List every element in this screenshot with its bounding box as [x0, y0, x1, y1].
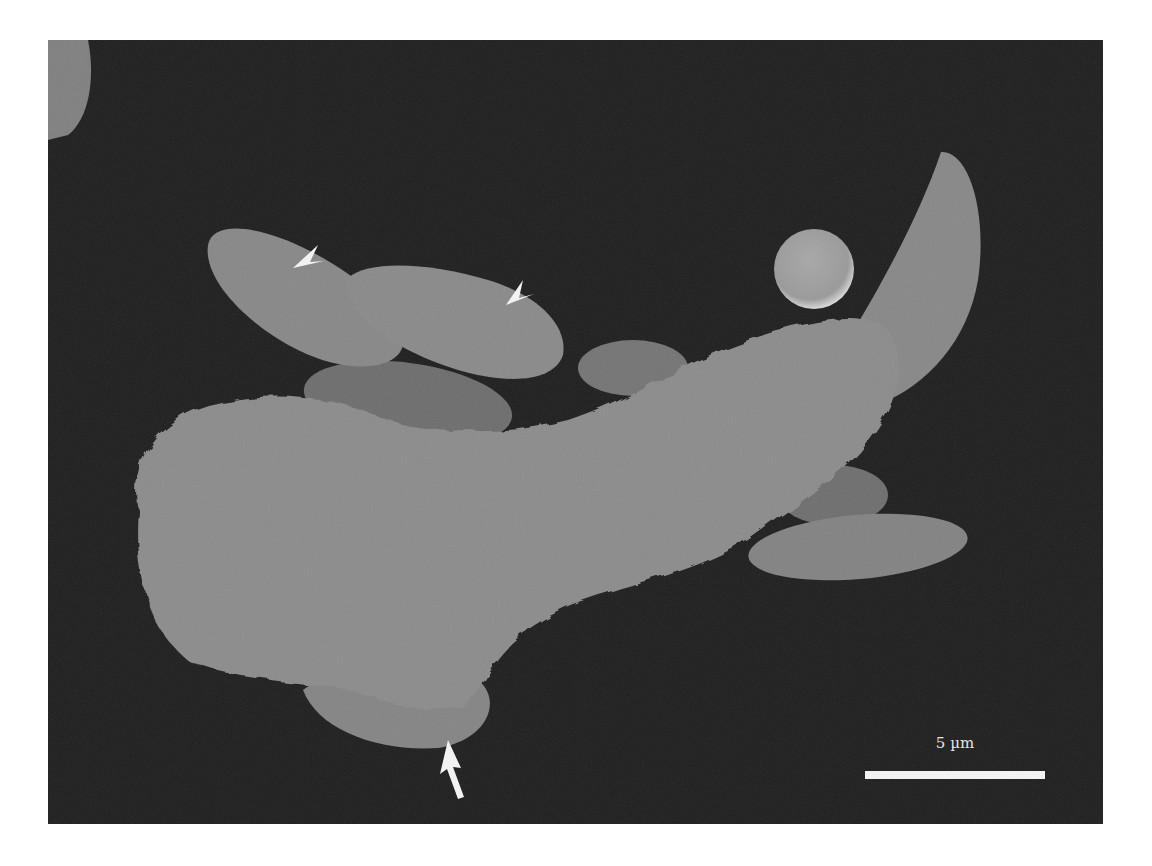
- scale-bar: [865, 771, 1045, 779]
- scale-bar-label: 5 µm: [865, 734, 1045, 752]
- sem-micrograph: 5 µm: [48, 40, 1103, 824]
- micrograph-scene: [48, 40, 1103, 824]
- image-grain: [48, 40, 1103, 824]
